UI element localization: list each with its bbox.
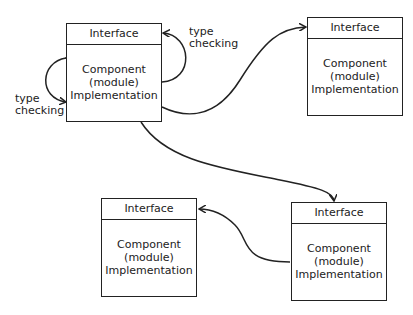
implementation-body: Component (module) Implementation bbox=[102, 220, 196, 277]
component-box-bottom-left: Interface Component (module) Implementat… bbox=[101, 198, 197, 297]
interface-header: Interface bbox=[67, 24, 161, 45]
interface-header: Interface bbox=[308, 18, 402, 39]
component-box-bottom-right: Interface Component (module) Implementat… bbox=[291, 202, 387, 301]
component-box-top-left: Interface Component (module) Implementat… bbox=[66, 23, 162, 122]
arrow-bottom-right-to-bottom-left bbox=[199, 209, 290, 262]
right-loop-arrow bbox=[162, 33, 186, 82]
implementation-body: Component (module) Implementation bbox=[67, 45, 161, 102]
type-checking-label-right: type checking bbox=[189, 26, 238, 50]
implementation-body: Component (module) Implementation bbox=[292, 224, 386, 281]
arrow-top-left-to-bottom-right bbox=[141, 122, 334, 201]
interface-header: Interface bbox=[292, 203, 386, 224]
component-box-top-right: Interface Component (module) Implementat… bbox=[307, 17, 403, 116]
type-checking-label-left: type checking bbox=[15, 93, 64, 117]
implementation-body: Component (module) Implementation bbox=[308, 39, 402, 96]
interface-header: Interface bbox=[102, 199, 196, 220]
